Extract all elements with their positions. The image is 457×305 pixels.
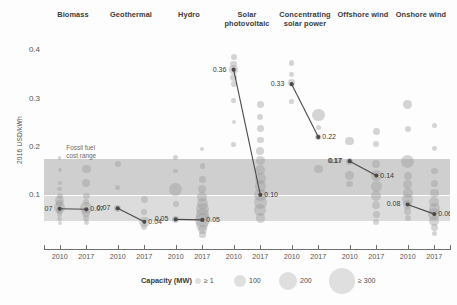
x-tick-label: 2010 [219,252,249,261]
trend-endpoint [316,135,320,139]
x-tick-label: 2010 [45,252,75,261]
x-tick-label: 2017 [361,252,391,261]
x-tick-label: 2017 [129,252,159,261]
technology-header-hydro: Hydro [160,11,218,20]
technology-header-onshore-wind: Onshore wind [392,11,450,20]
legend-bubble [195,278,201,284]
legend-bubble [234,275,246,287]
x-tick-mark [376,245,377,250]
x-tick-label: 2010 [161,252,191,261]
x-axis-cap [44,245,45,250]
legend-label: ≥ 1 [204,277,214,284]
x-axis-line [44,249,450,250]
trend-endpoint [432,212,436,216]
technology-header-solar-photovoltaic: Solar photovoltaic [218,11,276,28]
x-tick-mark [60,245,61,250]
x-tick-mark [434,245,435,250]
technology-header-geothermal: Geothermal [102,11,160,20]
legend-label: ≥ 300 [358,277,375,284]
x-tick-mark [86,245,87,250]
trend-endpoint [290,82,294,86]
x-axis-cap [450,245,451,250]
trend-endpoint [406,202,410,206]
legend-bubble [329,268,355,294]
x-tick-label: 2010 [103,252,133,261]
y-tick-0.4: 0.4 [14,45,40,54]
trend-endpoint [374,174,378,178]
trend-endpoint [84,207,88,211]
x-tick-label: 2017 [303,252,333,261]
trend-endpoint [200,218,204,222]
trend-endpoint [258,193,262,197]
trend-endpoint [174,217,178,221]
trend-endpoint [348,159,352,163]
x-tick-mark [260,245,261,250]
trend-line [408,204,435,214]
x-tick-mark [118,245,119,250]
x-tick-label: 2017 [419,252,449,261]
x-tick-mark [202,245,203,250]
trend-line [350,161,377,175]
legend-label: 200 [300,277,312,284]
x-tick-mark [176,245,177,250]
x-tick-label: 2010 [277,252,307,261]
trend-line [292,84,319,137]
legend-title: Capacity (MW) [141,276,192,285]
value-label-extra: 0.17 [328,157,342,164]
trend-line-layer [44,36,450,243]
x-tick-mark [292,245,293,250]
legend-label: 100 [249,277,261,284]
x-tick-label: 2017 [71,252,101,261]
chart-canvas: BiomassGeothermalHydroSolar photovoltaic… [0,0,457,305]
x-tick-label: 2010 [393,252,423,261]
trend-endpoint [58,207,62,211]
legend-bubble [279,272,297,290]
technology-header-concentrating-solar-power: Concentrating solar power [276,11,334,28]
trend-endpoint [232,68,236,72]
trend-endpoint [142,220,146,224]
plot-area: Fossil fuel cost range0.070.070.070.040.… [44,36,450,243]
x-tick-mark [234,245,235,250]
y-tick-0.1: 0.1 [14,190,40,199]
trend-endpoint [116,206,120,210]
technology-header-biomass: Biomass [44,11,102,20]
x-tick-label: 2017 [187,252,217,261]
x-tick-mark [144,245,145,250]
y-tick-0.3: 0.3 [14,94,40,103]
y-axis-label: 2016 USD/kWh [16,116,23,164]
x-tick-mark [318,245,319,250]
technology-header-offshore-wind: Offshore wind [334,11,392,20]
x-tick-label: 2010 [335,252,365,261]
trend-line [118,208,145,221]
x-tick-mark [408,245,409,250]
x-tick-label: 2017 [245,252,275,261]
x-tick-mark [350,245,351,250]
trend-line [234,70,261,195]
